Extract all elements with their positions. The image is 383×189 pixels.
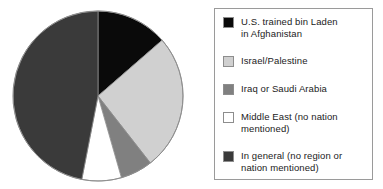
legend-item[interactable]: Israel/Palestine bbox=[223, 55, 366, 67]
legend-item[interactable]: U.S. trained bin Laden in Afghanistan bbox=[223, 16, 366, 39]
pie-chart-svg bbox=[8, 5, 192, 189]
legend-item-label: Iraq or Saudi Arabia bbox=[241, 83, 327, 95]
pie-chart bbox=[8, 5, 192, 189]
legend-item-label: Israel/Palestine bbox=[241, 55, 308, 67]
pie-slice-group bbox=[13, 11, 183, 181]
legend-item-list: U.S. trained bin Laden in AfghanistanIsr… bbox=[215, 9, 372, 179]
pie-slice[interactable] bbox=[13, 11, 98, 179]
legend-item-label: U.S. trained bin Laden in Afghanistan bbox=[241, 16, 338, 39]
legend-item[interactable]: In general (no region or nation mentione… bbox=[223, 150, 366, 173]
legend-item-label: Middle East (no nation mentioned) bbox=[241, 111, 338, 134]
legend-item-label: In general (no region or nation mentione… bbox=[241, 150, 342, 173]
legend-swatch-iraq-saudi-arabia bbox=[223, 84, 234, 95]
legend-swatch-israel-palestine bbox=[223, 56, 234, 67]
legend-item[interactable]: Iraq or Saudi Arabia bbox=[223, 83, 366, 95]
pie-chart-figure: U.S. trained bin Laden in AfghanistanIsr… bbox=[0, 0, 383, 189]
legend-item[interactable]: Middle East (no nation mentioned) bbox=[223, 111, 366, 134]
legend-swatch-in-general bbox=[223, 151, 234, 162]
legend-swatch-us-trained-bin-laden bbox=[223, 17, 234, 28]
legend-swatch-middle-east bbox=[223, 112, 234, 123]
legend: U.S. trained bin Laden in AfghanistanIsr… bbox=[214, 8, 373, 180]
